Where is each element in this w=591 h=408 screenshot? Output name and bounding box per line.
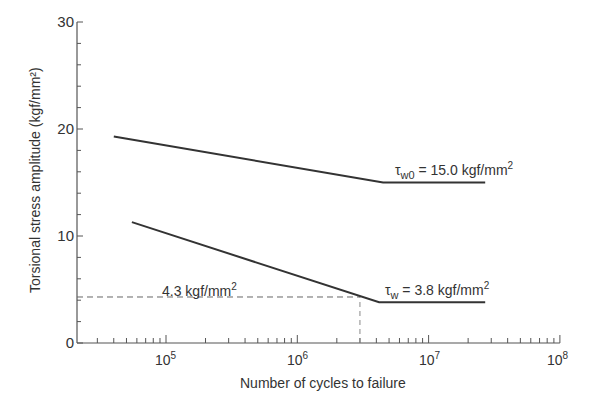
annotation-tau-w0: τw0 = 15.0 kgf/mm2: [395, 160, 513, 181]
x-tick-label-1e5: 105: [155, 350, 176, 368]
chart-root: 30 20 10 0 105 106 107 108 Number of cyc…: [0, 0, 591, 408]
annotation-tau-w: τw = 3.8 kgf/mm2: [385, 280, 489, 301]
y-tick-label-10: 10: [44, 227, 74, 244]
y-tick-label-20: 20: [44, 120, 74, 137]
y-tick-label-0: 0: [44, 334, 74, 351]
x-tick-label-1e7: 107: [419, 350, 440, 368]
x-tick-label-1e6: 106: [287, 350, 308, 368]
plot-svg: [0, 0, 591, 408]
annotation-4-3: 4.3 kgf/mm2: [162, 281, 237, 299]
x-tick-label-1e8: 108: [547, 350, 568, 368]
y-axis-label: Torsional stress amplitude (kgf/mm²): [27, 73, 43, 293]
y-tick-label-30: 30: [44, 13, 74, 30]
x-axis-label: Number of cycles to failure: [240, 375, 406, 391]
